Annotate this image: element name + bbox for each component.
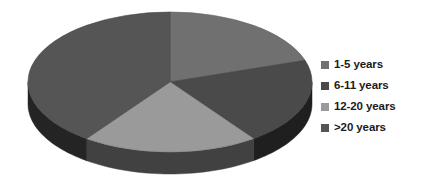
legend-item-1-5-years[interactable]: 1-5 years xyxy=(321,57,429,72)
legend-label: 12-20 years xyxy=(334,100,396,113)
pie-svg xyxy=(0,0,320,191)
legend-item-12-20-years[interactable]: 12-20 years xyxy=(321,99,429,114)
legend-label: 6-11 years xyxy=(334,79,389,92)
legend-label: >20 years xyxy=(334,121,386,134)
legend-swatch-icon xyxy=(321,61,329,69)
legend-item-over-20-years[interactable]: >20 years xyxy=(321,120,429,135)
legend-swatch-icon xyxy=(321,124,329,132)
legend-swatch-icon xyxy=(321,103,329,111)
pie-chart: 1-5 years 6-11 years 12-20 years >20 yea… xyxy=(0,0,429,191)
legend: 1-5 years 6-11 years 12-20 years >20 yea… xyxy=(321,57,429,135)
legend-label: 1-5 years xyxy=(334,58,383,71)
pie-graphic xyxy=(0,0,320,191)
legend-item-6-11-years[interactable]: 6-11 years xyxy=(321,78,429,93)
legend-swatch-icon xyxy=(321,82,329,90)
